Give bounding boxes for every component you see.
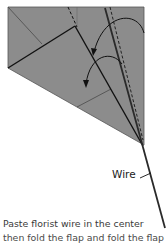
caption-line-2: then fold the flap and fold the flap: [3, 232, 164, 243]
wire-label-leader: [140, 173, 151, 178]
wire-label: Wire: [112, 168, 136, 180]
caption-line-1: Paste florist wire in the center: [3, 218, 144, 229]
